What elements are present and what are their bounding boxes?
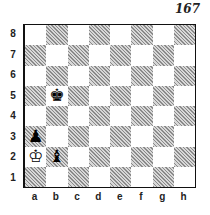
square-f3 xyxy=(131,126,152,146)
square-a4 xyxy=(25,106,46,126)
square-g4 xyxy=(153,106,174,126)
square-f1 xyxy=(131,167,152,187)
square-a3: ♟ xyxy=(25,126,46,146)
square-a2: ♔ xyxy=(25,147,46,167)
square-b7 xyxy=(46,45,67,65)
square-b4 xyxy=(46,106,67,126)
square-a6 xyxy=(25,66,46,86)
square-c7 xyxy=(68,45,89,65)
file-label: a xyxy=(24,191,45,202)
square-a1 xyxy=(25,167,46,187)
square-c3 xyxy=(68,126,89,146)
square-g2 xyxy=(153,147,174,167)
square-d2 xyxy=(89,147,110,167)
square-g6 xyxy=(153,66,174,86)
file-label: e xyxy=(109,191,130,202)
square-e3 xyxy=(110,126,131,146)
square-e1 xyxy=(110,167,131,187)
rank-label: 6 xyxy=(8,69,18,80)
square-g8 xyxy=(153,25,174,45)
square-a7 xyxy=(25,45,46,65)
square-d6 xyxy=(89,66,110,86)
square-g3 xyxy=(153,126,174,146)
file-label: d xyxy=(88,191,109,202)
white-king-icon: ♔ xyxy=(28,148,43,165)
square-d7 xyxy=(89,45,110,65)
square-d4 xyxy=(89,106,110,126)
square-g1 xyxy=(153,167,174,187)
square-e4 xyxy=(110,106,131,126)
square-d3 xyxy=(89,126,110,146)
square-h6 xyxy=(174,66,195,86)
square-g5 xyxy=(153,86,174,106)
square-h4 xyxy=(174,106,195,126)
square-h7 xyxy=(174,45,195,65)
square-f5 xyxy=(131,86,152,106)
file-label: h xyxy=(173,191,194,202)
square-h2 xyxy=(174,147,195,167)
square-b5: ♚ xyxy=(46,86,67,106)
square-f8 xyxy=(131,25,152,45)
square-b3 xyxy=(46,126,67,146)
square-h1 xyxy=(174,167,195,187)
rank-label: 1 xyxy=(8,172,18,183)
square-c6 xyxy=(68,66,89,86)
square-b1 xyxy=(46,167,67,187)
square-e7 xyxy=(110,45,131,65)
square-b2: ♝ xyxy=(46,147,67,167)
black-bishop-icon: ♝ xyxy=(49,148,64,165)
rank-label: 7 xyxy=(8,49,18,60)
square-a8 xyxy=(25,25,46,45)
square-f7 xyxy=(131,45,152,65)
square-g7 xyxy=(153,45,174,65)
square-e8 xyxy=(110,25,131,45)
file-label: c xyxy=(67,191,88,202)
square-d1 xyxy=(89,167,110,187)
square-a5 xyxy=(25,86,46,106)
file-label: b xyxy=(45,191,66,202)
black-pawn-icon: ♟ xyxy=(28,128,43,145)
black-king-icon: ♚ xyxy=(49,87,64,104)
square-e5 xyxy=(110,86,131,106)
square-c2 xyxy=(68,147,89,167)
square-h3 xyxy=(174,126,195,146)
square-b8 xyxy=(46,25,67,45)
square-d8 xyxy=(89,25,110,45)
square-h5 xyxy=(174,86,195,106)
diagram-number: 167 xyxy=(175,2,200,16)
square-c8 xyxy=(68,25,89,45)
square-b6 xyxy=(46,66,67,86)
square-e2 xyxy=(110,147,131,167)
rank-label: 4 xyxy=(8,110,18,121)
square-f4 xyxy=(131,106,152,126)
chess-board: ♚♟♔♝ xyxy=(23,24,196,188)
rank-label: 2 xyxy=(8,151,18,162)
square-c4 xyxy=(68,106,89,126)
file-label: g xyxy=(152,191,173,202)
square-e6 xyxy=(110,66,131,86)
rank-label: 8 xyxy=(8,28,18,39)
file-label: f xyxy=(131,191,152,202)
square-d5 xyxy=(89,86,110,106)
rank-label: 5 xyxy=(8,90,18,101)
square-c5 xyxy=(68,86,89,106)
square-h8 xyxy=(174,25,195,45)
rank-label: 3 xyxy=(8,131,18,142)
square-f2 xyxy=(131,147,152,167)
square-f6 xyxy=(131,66,152,86)
square-c1 xyxy=(68,167,89,187)
